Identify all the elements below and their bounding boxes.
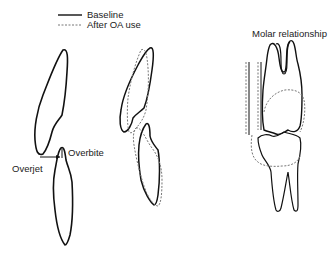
lower-incisor-left xyxy=(54,148,73,245)
overbite-label: Overbite xyxy=(68,147,104,158)
legend-after-label: After OA use xyxy=(87,19,141,30)
molar-relationship-label: Molar relationship xyxy=(252,28,327,39)
upper-molar xyxy=(262,41,302,135)
lower-molar xyxy=(258,132,301,211)
upper-incisor-middle-after xyxy=(127,49,148,132)
upper-molar-root-inner xyxy=(276,42,290,74)
lower-incisor-middle-baseline xyxy=(139,124,160,205)
upper-incisor-left xyxy=(35,50,68,155)
upper-molar-after xyxy=(264,90,305,132)
overjet-label: Overjet xyxy=(12,163,43,174)
